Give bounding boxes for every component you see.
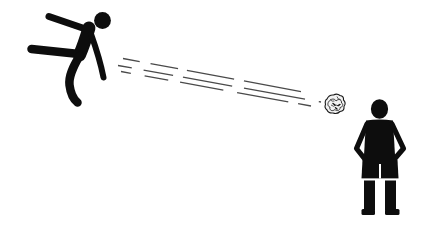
kicker-kicking-leg bbox=[32, 49, 80, 54]
receiver-right-foot bbox=[385, 209, 400, 215]
receiver-figure bbox=[357, 99, 404, 215]
motion-lines bbox=[118, 59, 321, 107]
illustration-canvas bbox=[0, 0, 430, 234]
receiver-left-foot bbox=[362, 209, 376, 215]
motion-line-middle bbox=[118, 66, 321, 103]
receiver-left-leg bbox=[364, 181, 375, 211]
kicker-head-icon bbox=[94, 12, 111, 29]
receiver-head-icon bbox=[371, 99, 388, 119]
kicker-figure bbox=[32, 12, 111, 102]
crumpled-ball bbox=[325, 94, 345, 113]
kicker-standing-leg bbox=[69, 56, 79, 103]
kicker-front-arm bbox=[91, 34, 104, 78]
scene-svg bbox=[0, 0, 430, 234]
receiver-right-leg bbox=[385, 181, 396, 211]
